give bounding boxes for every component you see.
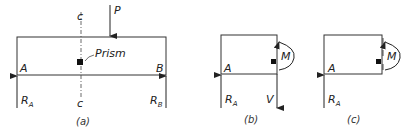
reaction-label-rb: RB <box>150 94 163 109</box>
shear-label-v: V <box>266 93 275 106</box>
caption-a: (a) <box>76 116 90 127</box>
panel-c: A M RA (c) <box>324 35 400 125</box>
section-label-bottom: c <box>77 97 83 110</box>
support-label-a-c: A <box>327 62 336 75</box>
support-label-b: B <box>156 62 164 75</box>
reaction-label-ra: RA <box>21 94 34 109</box>
support-label-a-b: A <box>223 62 232 75</box>
panel-a: c c P Prism A B RA RB (a) <box>17 4 166 127</box>
prism-label: Prism <box>95 47 126 60</box>
reaction-label-ra-c: RA <box>328 93 341 108</box>
panel-b: A M RA V (b) <box>221 35 294 125</box>
prism-b <box>271 59 276 64</box>
section-label-top: c <box>77 10 83 23</box>
moment-label-m-c: M <box>387 50 397 63</box>
moment-label-m-b: M <box>281 50 291 63</box>
prism-c <box>376 59 381 64</box>
caption-c: (c) <box>347 114 360 125</box>
beam-diagram: c c P Prism A B RA RB (a) A M RA V (b) A <box>0 0 418 133</box>
caption-b: (b) <box>244 114 258 125</box>
load-label-p: P <box>114 4 121 17</box>
support-label-a: A <box>19 62 28 75</box>
reaction-label-ra-b: RA <box>225 93 238 108</box>
prism-leader <box>85 55 94 61</box>
prism <box>77 59 83 65</box>
